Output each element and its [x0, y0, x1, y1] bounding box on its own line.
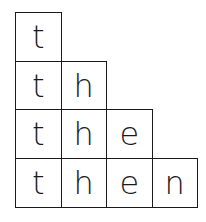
letter-cell-r2-c2: h — [61, 61, 108, 111]
letter-cell-r2-c1: t — [15, 61, 62, 111]
letter-cell-r4-c3: e — [106, 158, 153, 208]
letter-cell-r3-c2: h — [61, 109, 108, 159]
letter-cell-r3-c3: e — [106, 109, 153, 159]
letter-cell-r1-c1: t — [15, 12, 62, 62]
letter-cell-r4-c4: n — [152, 158, 199, 208]
letter-cell-r4-c2: h — [61, 158, 108, 208]
letter-cell-r3-c1: t — [15, 109, 62, 159]
letter-cell-r4-c1: t — [15, 158, 62, 208]
